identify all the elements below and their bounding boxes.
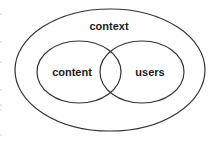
context-label: context: [89, 20, 128, 32]
content-label: content: [52, 66, 92, 78]
venn-diagram: context content users: [0, 0, 218, 141]
left-margin-dots: [0, 13, 1, 135]
users-label: users: [135, 66, 164, 78]
